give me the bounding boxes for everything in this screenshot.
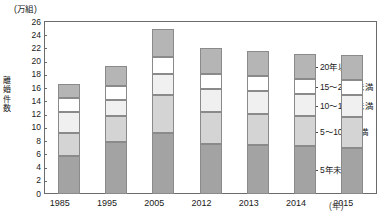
bar-segment[interactable] bbox=[58, 84, 80, 98]
bar-segment[interactable] bbox=[247, 51, 269, 76]
y-tick-label-20: 20 bbox=[27, 57, 41, 66]
bar-segment[interactable] bbox=[341, 80, 363, 95]
x-tick-label-2012: 2012 bbox=[182, 198, 222, 208]
bar-group[interactable] bbox=[200, 22, 222, 194]
bar-segment[interactable] bbox=[200, 112, 222, 144]
bar-segment[interactable] bbox=[152, 29, 174, 57]
bar-group[interactable] bbox=[247, 22, 269, 194]
y-tick-label-8: 8 bbox=[27, 137, 41, 146]
bar-group[interactable] bbox=[152, 22, 174, 194]
bar-segment[interactable] bbox=[294, 116, 316, 146]
y-axis-title-char-2: 件 bbox=[1, 95, 12, 104]
y-axis-title-char-0: 離 bbox=[1, 76, 12, 85]
bar-segment[interactable] bbox=[105, 86, 127, 100]
bar-segment[interactable] bbox=[200, 48, 222, 73]
bar-segment[interactable] bbox=[247, 91, 269, 113]
bar-segment[interactable] bbox=[294, 79, 316, 94]
y-tick-label-14: 14 bbox=[27, 97, 41, 106]
bar-segment[interactable] bbox=[200, 74, 222, 89]
bar-segment[interactable] bbox=[105, 142, 127, 194]
y-tick-label-2: 2 bbox=[27, 176, 41, 185]
bar-segment[interactable] bbox=[294, 146, 316, 194]
y-tick-label-0: 0 bbox=[27, 190, 41, 199]
y-axis-title-char-1: 婚 bbox=[1, 85, 12, 94]
bar-segment[interactable] bbox=[105, 116, 127, 142]
bar-segment[interactable] bbox=[152, 95, 174, 133]
bar-segment[interactable] bbox=[58, 98, 80, 112]
y-tick-label-24: 24 bbox=[27, 31, 41, 40]
x-tick-label-1995: 1995 bbox=[87, 198, 127, 208]
bar-segment[interactable] bbox=[105, 66, 127, 87]
bar-segment[interactable] bbox=[341, 117, 363, 147]
bar-group[interactable] bbox=[58, 22, 80, 194]
bar-segment[interactable] bbox=[200, 89, 222, 112]
y-tick-label-22: 22 bbox=[27, 44, 41, 53]
x-tick-label-2005: 2005 bbox=[134, 198, 174, 208]
y-axis-title-char-3: 数 bbox=[1, 104, 12, 113]
y-tick-label-10: 10 bbox=[27, 123, 41, 132]
bar-segment[interactable] bbox=[152, 57, 174, 74]
bar-segment[interactable] bbox=[294, 54, 316, 79]
y-tick-label-16: 16 bbox=[27, 84, 41, 93]
y-axis-unit-label: (万組) bbox=[14, 2, 36, 14]
divorce-duration-stacked-bar-chart: (万組) 離婚件数 26242220181614121086420 198519… bbox=[0, 0, 390, 221]
bar-segment[interactable] bbox=[105, 100, 127, 116]
bar-segment[interactable] bbox=[200, 144, 222, 194]
bar-segment[interactable] bbox=[152, 74, 174, 96]
bar-group[interactable] bbox=[105, 22, 127, 194]
y-tick-label-18: 18 bbox=[27, 70, 41, 79]
y-axis-title: 離婚件数 bbox=[1, 76, 12, 114]
bar-segment[interactable] bbox=[247, 76, 269, 91]
bar-segment[interactable] bbox=[341, 148, 363, 194]
y-tick-label-4: 4 bbox=[27, 163, 41, 172]
bar-segment[interactable] bbox=[341, 55, 363, 80]
bar-segment[interactable] bbox=[247, 145, 269, 194]
y-tick-label-6: 6 bbox=[27, 150, 41, 159]
x-tick-label-2013: 2013 bbox=[229, 198, 269, 208]
y-tick-label-26: 26 bbox=[27, 18, 41, 27]
bar-segment[interactable] bbox=[247, 114, 269, 145]
bar-segment[interactable] bbox=[58, 156, 80, 194]
y-tick-label-12: 12 bbox=[27, 110, 41, 119]
bar-segment[interactable] bbox=[58, 112, 80, 133]
bar-segment[interactable] bbox=[294, 94, 316, 116]
x-tick-label-1985: 1985 bbox=[40, 198, 80, 208]
bar-segment[interactable] bbox=[58, 133, 80, 156]
bar-segment[interactable] bbox=[341, 95, 363, 117]
bar-segment[interactable] bbox=[152, 133, 174, 194]
